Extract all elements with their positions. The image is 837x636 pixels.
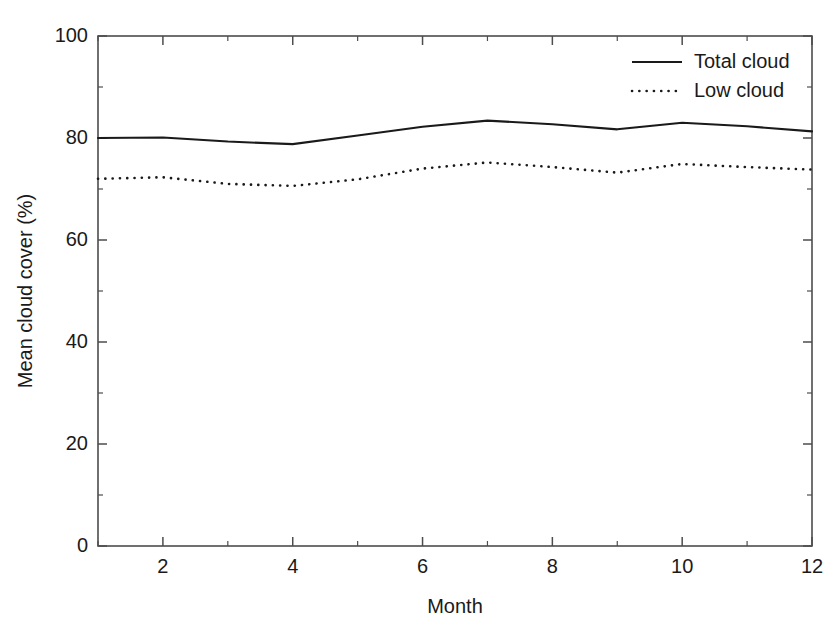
- y-tick-label: 40: [66, 330, 88, 352]
- series-line-low-cloud: [98, 162, 812, 185]
- x-tick-label: 4: [287, 555, 298, 577]
- x-tick-label: 8: [547, 555, 558, 577]
- cloud-cover-line-chart: 02040608010024681012 Total cloudLow clou…: [0, 0, 837, 636]
- axes-frame: [98, 36, 812, 546]
- axis-tick-labels: 02040608010024681012: [55, 24, 824, 577]
- x-tick-label: 12: [801, 555, 823, 577]
- y-tick-label: 80: [66, 126, 88, 148]
- y-tick-label: 0: [77, 534, 88, 556]
- y-axis-title: Mean cloud cover (%): [14, 194, 36, 389]
- x-axis-title: Month: [427, 595, 483, 617]
- y-tick-label: 60: [66, 228, 88, 250]
- chart-figure: 02040608010024681012 Total cloudLow clou…: [0, 0, 837, 636]
- y-tick-label: 20: [66, 432, 88, 454]
- axis-ticks: [98, 36, 812, 546]
- series-line-total-cloud: [98, 121, 812, 144]
- legend-label: Total cloud: [694, 50, 790, 72]
- y-tick-label: 100: [55, 24, 88, 46]
- chart-legend: Total cloudLow cloud: [632, 50, 790, 101]
- x-tick-label: 6: [417, 555, 428, 577]
- data-series: [98, 121, 812, 186]
- x-tick-label: 10: [671, 555, 693, 577]
- x-tick-label: 2: [157, 555, 168, 577]
- legend-label: Low cloud: [694, 79, 784, 101]
